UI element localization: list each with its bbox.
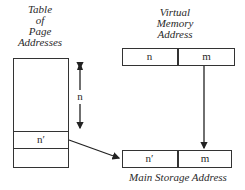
arrows: [0, 0, 245, 190]
n-prime-arrow-icon: [69, 140, 119, 158]
offset-label: n: [72, 90, 88, 102]
